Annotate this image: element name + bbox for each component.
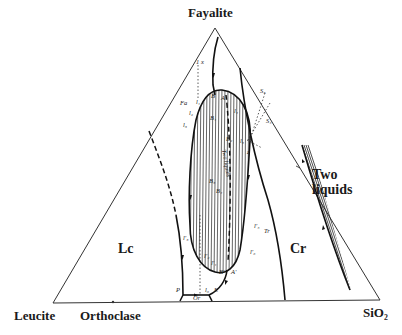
label-s3: S₃: [260, 87, 266, 94]
arrow-icon: [225, 280, 228, 285]
label-l6: l₆: [205, 286, 209, 293]
label-l5: l₅: [240, 137, 244, 144]
label-l5p: l′₅: [254, 222, 260, 229]
label-tr: Tr: [264, 227, 270, 234]
label-e: E: [213, 286, 218, 293]
label-p: P: [175, 286, 180, 293]
vertex-label-orthoclase: Orthoclase: [80, 308, 141, 323]
field-label-cristobalite: Cr: [290, 241, 306, 256]
label-b-prime: B': [219, 268, 225, 275]
label-a: A: [220, 94, 225, 101]
label-a-prime: A': [230, 268, 237, 275]
field-label-orthoclase: Or: [193, 294, 201, 301]
field-label-two-liquids-line1: Two: [312, 167, 337, 182]
label-s4: S₄: [266, 117, 272, 124]
arrow-icon: [302, 159, 305, 163]
field-label-two-liquids-line2: liquids: [312, 182, 353, 197]
label-fa: Fa: [179, 99, 187, 106]
label-b1: B₁: [210, 114, 216, 121]
label-1x: 1 x: [196, 58, 204, 65]
label-l2: l₂: [189, 109, 194, 116]
ternary-phase-diagram: Fayalite Leucite Orthoclase SiO₂: [0, 0, 402, 335]
vertex-label-sio2: SiO₂: [363, 305, 388, 320]
label-l1: l₁: [196, 98, 200, 105]
field-label-leucite: Lc: [118, 241, 134, 256]
vertex-label-leucite: Leucite: [14, 308, 55, 323]
triangle-frame: [53, 28, 380, 303]
fayalite-cotectic: [212, 37, 218, 95]
label-l6p: l′₆: [250, 248, 256, 255]
label-l4: l₄: [234, 107, 239, 114]
orthoclase-tick: [112, 301, 114, 303]
label-b: B: [211, 92, 215, 99]
label-b3: B₃: [209, 177, 215, 184]
two-liquids-region: [189, 85, 252, 280]
vertex-label-fayalite: Fayalite: [188, 5, 233, 20]
label-b2: B₂: [226, 135, 233, 142]
edge-leucite-sio2: [53, 300, 380, 303]
arrow-icon: [322, 225, 325, 230]
label-l3p: l′₃: [183, 234, 189, 241]
label-l3: l₃: [183, 121, 187, 128]
label-z: z: [246, 148, 250, 155]
label-l1p: l′₁: [211, 259, 217, 266]
leucite-boundary: [149, 131, 184, 295]
label-b4: B₄: [216, 187, 223, 194]
label-l2p: l′₂: [204, 252, 210, 259]
